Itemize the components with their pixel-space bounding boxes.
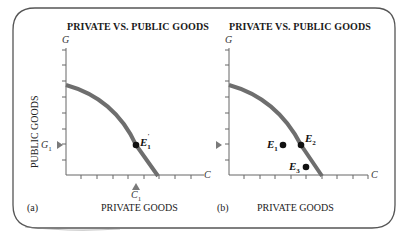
panel-b-x-axis-label: PRIVATE GOODS — [257, 202, 334, 213]
panel-a-g1-label: G1 — [41, 139, 52, 153]
panel-b-label: (b) — [217, 202, 229, 213]
panel-b-g-marker-icon — [216, 141, 222, 149]
panel-b-ppf-curve — [229, 85, 322, 176]
panel-a-title: PRIVATE VS. PUBLIC GOODS — [67, 21, 209, 32]
panel-a-label: (a) — [27, 202, 38, 213]
frame-border — [13, 8, 395, 228]
panel-a-g1-marker-icon — [57, 141, 63, 149]
g1-sub: 1 — [48, 145, 52, 153]
panel-b-e1-label: E1 — [267, 138, 278, 153]
e1-sub: 1 — [274, 145, 278, 153]
e2-sub: 2 — [312, 139, 316, 147]
panel-a-y-ticks — [62, 50, 66, 160]
panel-b-point-e2 — [298, 142, 305, 149]
panel-a-point-e1-prime — [133, 142, 140, 149]
panel-b-point-e3 — [303, 164, 310, 171]
panel-b-point-e1 — [280, 142, 287, 149]
panel-b-title: PRIVATE VS. PUBLIC GOODS — [229, 21, 371, 32]
panel-b-y-var: G — [225, 34, 232, 45]
panel-a-x-var: C — [204, 169, 211, 180]
panel-a-c1-label: C1 — [131, 189, 141, 203]
panel-a-e1-prime-label: E'1 — [140, 136, 151, 151]
panel-b-y-ticks — [225, 50, 229, 160]
panel-a-plot — [57, 48, 204, 190]
panel-b-e2-label: E2 — [305, 132, 316, 147]
prime-mark: ' — [147, 132, 149, 140]
e-letter: E — [140, 136, 147, 148]
e3-sub: 3 — [296, 167, 300, 175]
panel-a-x-axis-label: PRIVATE GOODS — [101, 202, 178, 213]
panel-a-ppf-curve — [66, 85, 158, 176]
c1-letter: C — [131, 189, 138, 200]
panel-a-y-axis-label: PUBLIC GOODS — [29, 95, 40, 168]
panel-a-y-var: G — [62, 34, 69, 45]
panel-b-e3-label: E3 — [289, 160, 300, 175]
e-sub: 1 — [147, 143, 151, 151]
panel-b-x-ticks — [244, 175, 368, 179]
panel-b-x-var: C — [371, 169, 378, 180]
panel-a-x-ticks — [81, 175, 191, 179]
